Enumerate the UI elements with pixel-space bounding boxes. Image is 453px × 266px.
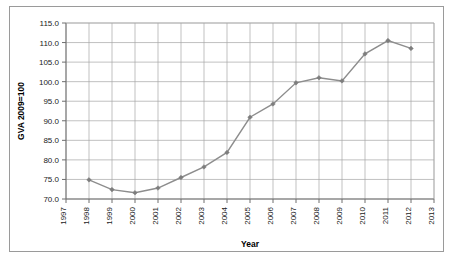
data-point-marker — [133, 190, 138, 195]
y-tick-label: 105.0 — [39, 58, 60, 67]
grid-layer — [66, 23, 434, 199]
x-tick-label: 2003 — [197, 206, 206, 224]
y-tick-label: 95.0 — [43, 97, 59, 106]
data-point-marker — [317, 75, 322, 80]
data-point-marker — [156, 186, 161, 191]
x-tick-label: 2000 — [128, 206, 137, 224]
x-tick-label: 2005 — [243, 206, 252, 224]
axis-layer — [62, 23, 434, 203]
line-chart: 70.075.080.085.090.095.0100.0105.0110.01… — [10, 7, 443, 251]
x-tick-label: 2009 — [335, 206, 344, 224]
x-axis-title: Year — [241, 239, 260, 249]
y-tick-label: 115.0 — [40, 19, 60, 28]
x-tick-label: 2006 — [266, 206, 275, 224]
x-tick-label: 2002 — [174, 206, 183, 224]
x-tick-label: 2013 — [427, 206, 436, 224]
x-tick-label: 2010 — [358, 206, 367, 224]
x-tick-label: 1999 — [105, 206, 114, 224]
y-tick-label: 110.0 — [40, 39, 60, 48]
data-point-marker — [87, 178, 92, 183]
chart-frame: 70.075.080.085.090.095.0100.0105.0110.01… — [9, 6, 444, 252]
y-tick-label: 100.0 — [39, 78, 60, 87]
x-tick-label: 2001 — [151, 206, 160, 224]
x-tick-label: 2011 — [381, 206, 390, 224]
label-layer: 70.075.080.085.090.095.0100.0105.0110.01… — [16, 19, 436, 249]
x-tick-label: 2012 — [404, 206, 413, 224]
data-point-marker — [409, 46, 414, 51]
x-tick-label: 2004 — [220, 206, 229, 224]
y-tick-label: 90.0 — [43, 117, 59, 126]
data-point-marker — [110, 187, 115, 192]
x-tick-label: 1998 — [82, 206, 91, 224]
y-tick-label: 75.0 — [43, 175, 59, 184]
y-tick-label: 80.0 — [43, 156, 59, 165]
x-tick-label: 2008 — [312, 206, 321, 224]
x-tick-label: 1997 — [59, 206, 68, 224]
y-tick-label: 85.0 — [43, 136, 59, 145]
x-tick-label: 2007 — [289, 206, 298, 224]
y-tick-label: 70.0 — [43, 195, 59, 204]
y-axis-title: GVA 2009=100 — [16, 82, 26, 140]
